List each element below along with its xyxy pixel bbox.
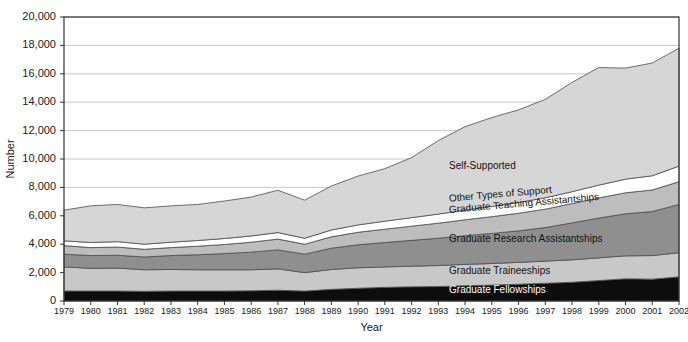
x-axis-ticks: 1979198019811982198319841985198619871988… (54, 301, 688, 316)
x-tick-label: 1989 (321, 306, 341, 316)
y-tick-label: 14,000 (22, 95, 56, 107)
x-tick-label: 1997 (535, 306, 555, 316)
y-tick-label: 20,000 (22, 10, 56, 22)
x-tick-label: 1982 (134, 306, 154, 316)
y-tick-label: 16,000 (22, 67, 56, 79)
x-tick-label: 1983 (161, 306, 181, 316)
series-label-4: Graduate Traineeships (449, 265, 550, 276)
x-tick-label: 1981 (107, 306, 127, 316)
x-tick-label: 1986 (241, 306, 261, 316)
series-label-0: Self-Supported (449, 160, 516, 171)
x-tick-label: 1995 (482, 306, 502, 316)
x-tick-label: 1990 (348, 306, 368, 316)
x-tick-label: 2001 (642, 306, 662, 316)
series-label-3: Graduate Research Assistantships (449, 233, 602, 244)
x-tick-label: 1980 (81, 306, 101, 316)
series-label-5: Graduate Fellowships (449, 284, 546, 295)
x-tick-label: 2002 (669, 306, 688, 316)
x-tick-label: 1988 (295, 306, 315, 316)
y-tick-label: 10,000 (22, 152, 56, 164)
stacked-area-chart: 02,0004,0006,0008,00010,00012,00014,0001… (0, 0, 688, 342)
x-tick-label: 1994 (455, 306, 475, 316)
y-tick-label: 6,000 (28, 209, 56, 221)
x-tick-label: 1996 (509, 306, 529, 316)
y-tick-label: 4,000 (28, 237, 56, 249)
x-tick-label: 1985 (214, 306, 234, 316)
y-tick-label: 18,000 (22, 38, 56, 50)
x-tick-label: 1987 (268, 306, 288, 316)
x-tick-label: 1992 (402, 306, 422, 316)
x-tick-label: 1979 (54, 306, 74, 316)
y-tick-label: 12,000 (22, 124, 56, 136)
x-tick-label: 2000 (616, 306, 636, 316)
x-tick-label: 1999 (589, 306, 609, 316)
x-tick-label: 1998 (562, 306, 582, 316)
y-axis-ticks: 02,0004,0006,0008,00010,00012,00014,0001… (22, 10, 64, 306)
x-tick-label: 1993 (428, 306, 448, 316)
chart-canvas: 02,0004,0006,0008,00010,00012,00014,0001… (0, 0, 688, 342)
x-tick-label: 1984 (188, 306, 208, 316)
y-axis-title: Number (4, 139, 16, 178)
y-tick-label: 2,000 (28, 266, 56, 278)
x-axis-title: Year (360, 321, 383, 333)
y-tick-label: 8,000 (28, 180, 56, 192)
x-tick-label: 1991 (375, 306, 395, 316)
y-tick-label: 0 (50, 294, 56, 306)
